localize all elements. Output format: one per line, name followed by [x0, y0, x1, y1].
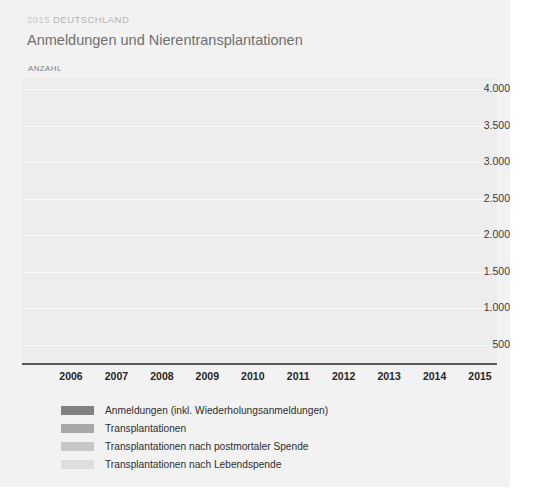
y-axis-tick-label: 2.000: [464, 228, 510, 240]
x-axis-tick-label: 2012: [332, 370, 355, 382]
gridline: [22, 162, 497, 163]
legend-swatch: [61, 424, 94, 433]
y-axis-tick-label: 500: [464, 338, 510, 350]
chart-figure: 2015 DEUTSCHLAND Anmeldungen und Nierent…: [0, 0, 536, 503]
y-axis-tick-label: 3.500: [464, 119, 510, 131]
legend-item: Transplantationen nach Lebendspende: [61, 456, 328, 473]
y-axis-tick-label: 1.000: [464, 301, 510, 313]
x-axis-tick-label: 2008: [150, 370, 173, 382]
legend-swatch: [61, 406, 94, 415]
legend-label: Anmeldungen (inkl. Wiederholungsanmeldun…: [105, 405, 328, 416]
chart-legend: Anmeldungen (inkl. Wiederholungsanmeldun…: [61, 402, 328, 474]
gridline: [22, 89, 497, 90]
y-axis-unit-label: ANZAHL: [28, 64, 62, 73]
gridline: [22, 272, 497, 273]
legend-label: Transplantationen nach postmortaler Spen…: [105, 441, 309, 452]
gridline: [22, 126, 497, 127]
legend-item: Transplantationen nach postmortaler Spen…: [61, 438, 328, 455]
x-axis-line: [22, 363, 497, 365]
x-axis-tick-label: 2013: [377, 370, 400, 382]
x-axis-tick-label: 2010: [241, 370, 264, 382]
legend-swatch: [61, 442, 94, 451]
legend-label: Transplantationen: [105, 423, 186, 434]
plot-area: [22, 78, 497, 363]
plot-background: [22, 78, 497, 363]
gridline: [22, 199, 497, 200]
legend-item: Transplantationen: [61, 420, 328, 437]
legend-item: Anmeldungen (inkl. Wiederholungsanmeldun…: [61, 402, 328, 419]
chart-panel: 2015 DEUTSCHLAND Anmeldungen und Nierent…: [0, 0, 510, 487]
gridline: [22, 235, 497, 236]
y-axis-tick-label: 4.000: [464, 82, 510, 94]
gridline: [22, 345, 497, 346]
gridline: [22, 308, 497, 309]
kicker-year: 2015: [27, 14, 50, 25]
y-axis-tick-label: 3.000: [464, 155, 510, 167]
legend-swatch: [61, 460, 94, 469]
x-axis-tick-label: 2011: [287, 370, 310, 382]
x-axis-tick-label: 2006: [59, 370, 82, 382]
x-axis-tick-label: 2007: [105, 370, 128, 382]
page-title: Anmeldungen und Nierentransplantationen: [27, 32, 303, 48]
chart-kicker: 2015 DEUTSCHLAND: [27, 14, 129, 25]
x-axis-tick-label: 2009: [196, 370, 219, 382]
x-axis-tick-label: 2014: [423, 370, 446, 382]
y-axis-tick-label: 1.500: [464, 265, 510, 277]
legend-label: Transplantationen nach Lebendspende: [105, 459, 281, 470]
kicker-country: DEUTSCHLAND: [53, 14, 129, 25]
x-axis-tick-label: 2015: [468, 370, 491, 382]
y-axis-tick-label: 2.500: [464, 192, 510, 204]
